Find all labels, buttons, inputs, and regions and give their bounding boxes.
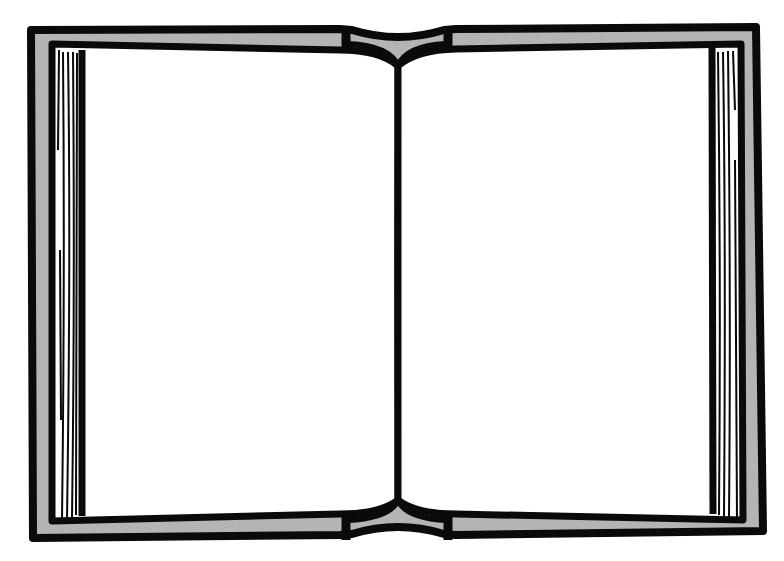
book-drawing xyxy=(0,0,784,561)
right-page xyxy=(398,44,743,520)
left-page xyxy=(52,44,398,521)
open-book-illustration xyxy=(0,0,784,561)
